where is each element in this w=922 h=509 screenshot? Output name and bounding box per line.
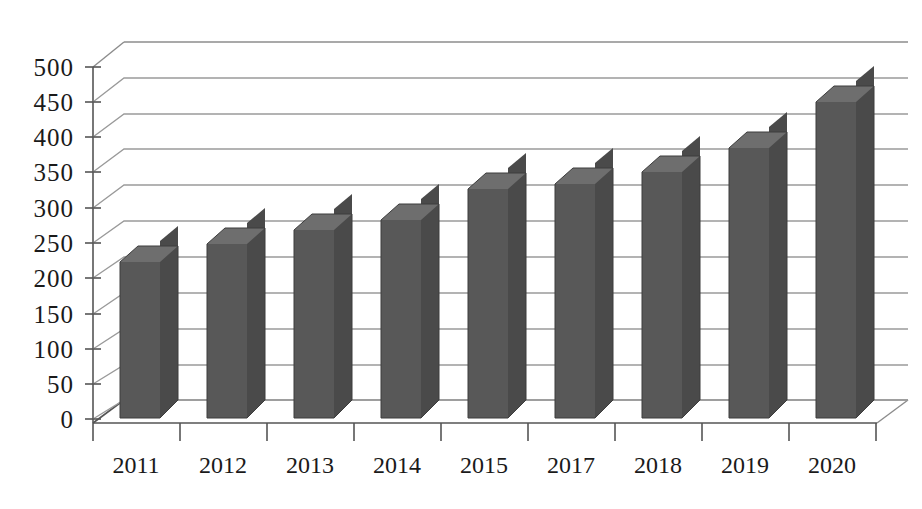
bar-2014[interactable] xyxy=(381,184,439,418)
x-tick-label-2015: 2015 xyxy=(440,453,528,477)
chart-canvas: 500 450 400 350 300 250 200 150 100 50 0… xyxy=(0,0,922,509)
y-tick-label-400: 400 xyxy=(0,125,74,150)
y-tick-label-300: 300 xyxy=(0,196,74,221)
y-tick-label-350: 350 xyxy=(0,160,74,185)
x-tick-label-2019: 2019 xyxy=(701,453,789,477)
bar-2017[interactable] xyxy=(555,148,613,418)
bar-2012[interactable] xyxy=(207,208,265,418)
bar-chart-plot xyxy=(0,0,922,509)
y-tick-label-500: 500 xyxy=(0,55,74,80)
x-tick-label-2013: 2013 xyxy=(266,453,354,477)
bar-2015[interactable] xyxy=(468,153,526,418)
bar-group xyxy=(120,66,874,418)
bar-2020[interactable] xyxy=(816,66,874,418)
y-tick-label-250: 250 xyxy=(0,231,74,256)
x-tick-label-2017: 2017 xyxy=(527,453,615,477)
y-tick-label-0: 0 xyxy=(0,407,74,432)
y-tick-label-50: 50 xyxy=(0,372,74,397)
y-tick-label-450: 450 xyxy=(0,90,74,115)
y-tick-label-150: 150 xyxy=(0,302,74,327)
bar-2013[interactable] xyxy=(294,194,352,418)
x-tick-label-2018: 2018 xyxy=(614,453,702,477)
bar-2019[interactable] xyxy=(729,112,787,418)
y-tick-label-100: 100 xyxy=(0,337,74,362)
y-tick-label-200: 200 xyxy=(0,266,74,291)
x-tick-label-2014: 2014 xyxy=(353,453,441,477)
x-tick-label-2011: 2011 xyxy=(92,453,180,477)
x-tick-label-2020: 2020 xyxy=(788,453,876,477)
x-tick-label-2012: 2012 xyxy=(179,453,267,477)
bar-2011[interactable] xyxy=(120,226,178,418)
x-axis-ticks xyxy=(93,423,876,441)
bar-2018[interactable] xyxy=(642,136,700,418)
